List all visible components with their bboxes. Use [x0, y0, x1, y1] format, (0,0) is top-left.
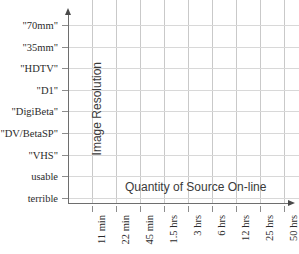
x-tick-label: 6 hrs — [216, 215, 227, 236]
y-axis-tick — [62, 133, 68, 134]
y-axis-tick — [62, 198, 68, 199]
y-axis-tick — [62, 90, 68, 91]
grid-line-horizontal — [68, 176, 299, 177]
x-tick-label: 1.5 hrs — [168, 215, 179, 244]
y-tick-label: "70mm" — [23, 20, 58, 31]
grid-line-vertical — [140, 0, 141, 204]
grid-line-horizontal — [68, 25, 299, 26]
grid-line-vertical — [188, 0, 189, 204]
x-tick-label: 45 min — [144, 215, 155, 244]
y-tick-label: "DigiBeta" — [12, 106, 58, 117]
grid-line-horizontal — [68, 198, 299, 199]
y-axis-tick — [62, 68, 68, 69]
y-tick-label: "D1" — [37, 85, 58, 96]
grid-line-horizontal — [68, 47, 299, 48]
x-axis-tick — [116, 206, 117, 212]
y-tick-label: "35mm" — [23, 42, 58, 53]
y-axis-tick — [62, 155, 68, 156]
x-tick-label: 3 hrs — [192, 215, 203, 236]
x-axis-tick — [164, 206, 165, 212]
grid-line-vertical — [236, 0, 237, 204]
x-axis-tick — [212, 206, 213, 212]
grid-line-vertical — [116, 0, 117, 204]
x-tick-label: 25 hrs — [264, 215, 275, 241]
y-tick-label: "DV/BetaSP" — [0, 128, 58, 139]
y-axis-title: Image Resolution — [90, 62, 104, 155]
y-axis-tick — [62, 176, 68, 177]
x-tick-label: 50 hrs — [288, 215, 299, 241]
x-axis-line — [68, 203, 289, 204]
y-tick-label: "HDTV" — [20, 63, 58, 74]
x-axis-tick — [188, 206, 189, 212]
y-axis-arrow-icon — [65, 8, 71, 15]
grid-line-vertical — [164, 0, 165, 204]
x-tick-label: 12 hrs — [240, 215, 251, 241]
y-tick-label: "VHS" — [28, 150, 58, 161]
y-axis-tick — [62, 25, 68, 26]
x-axis-arrow-icon — [288, 200, 295, 206]
x-axis-tick — [140, 206, 141, 212]
y-axis-tick — [62, 111, 68, 112]
x-axis-tick — [236, 206, 237, 212]
grid-line-vertical — [260, 0, 261, 204]
x-tick-label: 11 min — [96, 215, 107, 244]
x-axis-tick — [92, 206, 93, 212]
grid-line-vertical — [284, 0, 285, 204]
grid-line-vertical — [212, 0, 213, 204]
x-axis-tick — [284, 206, 285, 212]
y-axis-line — [68, 14, 69, 204]
y-tick-label: terrible — [28, 193, 58, 204]
x-axis-title: Quantity of Source On-line — [125, 180, 266, 194]
chart-canvas: "70mm""35mm""HDTV""D1""DigiBeta""DV/Beta… — [0, 0, 299, 254]
y-tick-label: usable — [31, 171, 58, 182]
y-axis-tick — [62, 47, 68, 48]
x-axis-tick — [260, 206, 261, 212]
x-tick-label: 22 min — [120, 215, 131, 244]
